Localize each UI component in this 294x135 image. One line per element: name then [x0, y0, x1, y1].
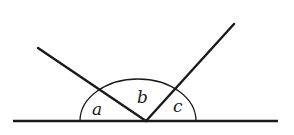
- angle-label-b: b: [137, 87, 148, 107]
- angle-label-c: c: [173, 96, 183, 116]
- angles-diagram: a b c: [0, 0, 294, 135]
- right-ray: [146, 24, 234, 121]
- angle-label-a: a: [92, 99, 102, 119]
